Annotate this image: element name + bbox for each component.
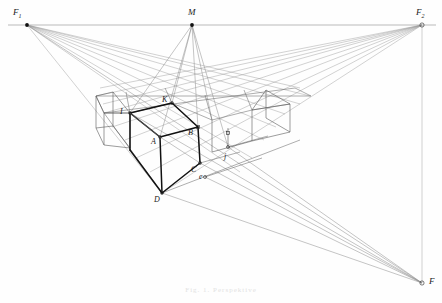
- perspective-drawing: .c { stroke:#9a9a9a; stroke-width:0.45; …: [0, 0, 442, 303]
- figure-caption: Fig. 1. Perspektive: [0, 286, 442, 294]
- figure-canvas: .c { stroke:#9a9a9a; stroke-width:0.45; …: [0, 0, 442, 303]
- right-auxiliary-boxes: [212, 90, 290, 152]
- rays-to-vertical-vp: [130, 25, 422, 283]
- left-auxiliary-boxes: [96, 92, 130, 148]
- rays-from-m: [130, 25, 228, 163]
- unit-cube: [130, 103, 200, 193]
- perspective-grid-top: [96, 88, 311, 120]
